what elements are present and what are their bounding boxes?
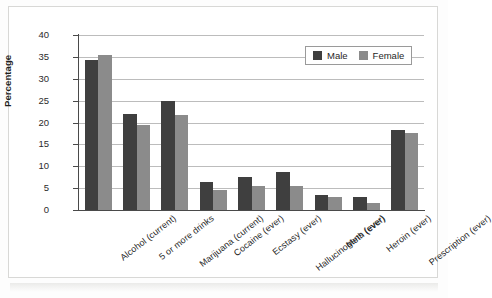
- y-tick-label: 25: [9, 96, 49, 106]
- bar-female: [367, 203, 381, 210]
- y-tick-mark: [73, 210, 79, 211]
- chart-legend: MaleFemale: [305, 46, 412, 65]
- page-shadow: [10, 283, 438, 292]
- x-tick-label: Meth (ever): [344, 213, 387, 250]
- bar-female: [252, 186, 266, 210]
- bar-group: [238, 35, 265, 210]
- legend-swatch: [313, 51, 322, 60]
- bar-male: [391, 130, 405, 211]
- bar-female: [328, 197, 342, 210]
- y-tick-label: 20: [9, 118, 49, 128]
- chart-frame: Percentage 4035302520151050 Alcohol (cur…: [8, 6, 438, 278]
- bar-group: [276, 35, 303, 210]
- bar-male: [85, 60, 99, 210]
- bar-male: [200, 182, 214, 210]
- y-tick-label: 35: [9, 52, 49, 62]
- bar-female: [137, 125, 151, 210]
- bar-male: [276, 172, 290, 211]
- bar-male: [353, 197, 367, 210]
- bar-male: [238, 177, 252, 210]
- legend-item: Female: [359, 50, 405, 61]
- bar-female: [290, 186, 304, 210]
- bar-male: [161, 101, 175, 210]
- legend-swatch: [359, 51, 368, 60]
- bar-group: [123, 35, 150, 210]
- legend-label: Female: [373, 50, 405, 61]
- y-tick-label: 15: [9, 139, 49, 149]
- bar-male: [315, 195, 329, 210]
- y-tick-label: 30: [9, 74, 49, 84]
- x-tick-label: Prescription (ever): [427, 213, 492, 267]
- bar-male: [123, 114, 137, 210]
- bar-female: [175, 115, 189, 210]
- bar-female: [213, 190, 227, 210]
- bar-group: [161, 35, 188, 210]
- bar-female: [405, 133, 419, 210]
- x-axis-line: [78, 210, 425, 211]
- y-tick-label: 5: [9, 183, 49, 193]
- y-tick-label: 10: [9, 161, 49, 171]
- y-tick-label: 40: [9, 30, 49, 40]
- legend-item: Male: [313, 50, 348, 61]
- bar-female: [98, 55, 112, 210]
- legend-label: Male: [327, 50, 348, 61]
- bar-group: [200, 35, 227, 210]
- bar-group: [85, 35, 112, 210]
- x-tick-label: Heroin (ever): [384, 213, 433, 254]
- y-tick-label: 0: [9, 205, 49, 215]
